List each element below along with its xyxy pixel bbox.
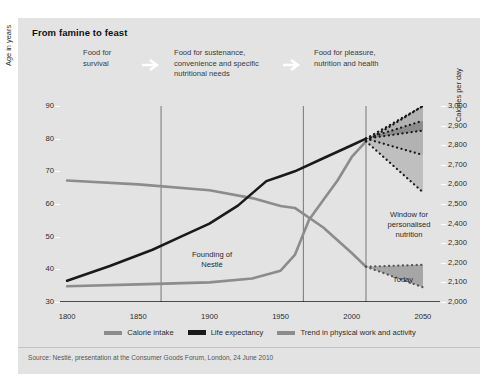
annotation-founding-of-nestle: Founding ofNestlé <box>170 250 254 270</box>
legend-swatch-icon <box>277 331 295 335</box>
y-axis-right-tick-mark <box>441 263 446 264</box>
y-axis-right-tick-mark <box>441 302 446 303</box>
legend-label: Calorie intake <box>127 328 173 337</box>
x-axis-tick-label: 2000 <box>332 312 372 321</box>
annotation-window-for-personalised-nutrition: Window forpersonalisednutrition <box>376 210 442 240</box>
legend-item-0[interactable]: Calorie intake <box>104 328 173 337</box>
source-note: Source: Nestlé, presentation at the Cons… <box>28 354 273 361</box>
plot-svg <box>60 106 440 302</box>
y-axis-right-tick-mark <box>441 243 446 244</box>
y-axis-left-tick-label: 90 <box>32 101 54 110</box>
y-axis-left-tick-mark <box>55 302 60 303</box>
y-axis-left-tick-label: 70 <box>32 166 54 175</box>
annotation-today: Today <box>378 275 428 285</box>
y-axis-right-tick-label: 2,700 <box>448 160 482 169</box>
y-axis-left-tick-label: 30 <box>32 297 54 306</box>
y-axis-right-tick-label: 2,900 <box>448 121 482 130</box>
x-axis-tick-label: 1800 <box>47 312 87 321</box>
y-axis-left-tick-label: 80 <box>32 134 54 143</box>
x-axis-tick-label: 2050 <box>403 312 443 321</box>
y-axis-right-tick-label: 2,000 <box>448 297 482 306</box>
plot-area <box>60 106 440 302</box>
y-axis-right-tick-mark <box>441 106 446 107</box>
y-axis-right-tick-label: 3,000 <box>448 101 482 110</box>
phase-label-2: Food for sustenance,convenience and spec… <box>174 48 292 80</box>
legend-swatch-icon <box>104 331 122 335</box>
y-axis-right-tick-label: 2,300 <box>448 238 482 247</box>
y-axis-right-tick-mark <box>441 145 446 146</box>
x-axis-tick-label: 1850 <box>118 312 158 321</box>
y-axis-right-tick-label: 2,100 <box>448 277 482 286</box>
phase-arrow-2-icon <box>281 58 303 72</box>
chart-figure: From famine to feast Food forsurvival Fo… <box>18 18 480 374</box>
page-title: From famine to feast <box>32 27 127 38</box>
y-axis-left-tick-label: 40 <box>32 264 54 273</box>
y-axis-right-tick-mark <box>441 204 446 205</box>
y-axis-right-tick-mark <box>441 184 446 185</box>
y-axis-right-tick-label: 2,800 <box>448 140 482 149</box>
legend-item-1[interactable]: Life expectancy <box>188 328 264 337</box>
legend-swatch-icon <box>188 330 206 335</box>
y-axis-right-title: Calories per day <box>454 68 463 122</box>
y-axis-left-title: Age in years <box>4 25 13 66</box>
y-axis-left-tick-label: 50 <box>32 232 54 241</box>
x-axis-tick-label: 1900 <box>189 312 229 321</box>
y-axis-right-tick-label: 2,600 <box>448 179 482 188</box>
y-axis-right-tick-mark <box>441 282 446 283</box>
y-axis-right-tick-label: 2,500 <box>448 199 482 208</box>
phase-arrow-1-icon <box>140 58 162 72</box>
y-axis-right-tick-mark <box>441 126 446 127</box>
y-axis-right-tick-label: 2,200 <box>448 258 482 267</box>
phase-label-3: Food for pleasure,nutrition and health <box>314 48 424 69</box>
y-axis-left-tick-label: 60 <box>32 199 54 208</box>
y-axis-right-tick-label: 2,400 <box>448 219 482 228</box>
chart-legend: Calorie intakeLife expectancyTrend in ph… <box>60 328 460 337</box>
footer-divider <box>18 347 480 348</box>
legend-label: Trend in physical work and activity <box>300 328 415 337</box>
legend-item-2[interactable]: Trend in physical work and activity <box>277 328 415 337</box>
x-axis-tick-label: 1950 <box>261 312 301 321</box>
y-axis-right-tick-mark <box>441 165 446 166</box>
legend-label: Life expectancy <box>211 328 264 337</box>
